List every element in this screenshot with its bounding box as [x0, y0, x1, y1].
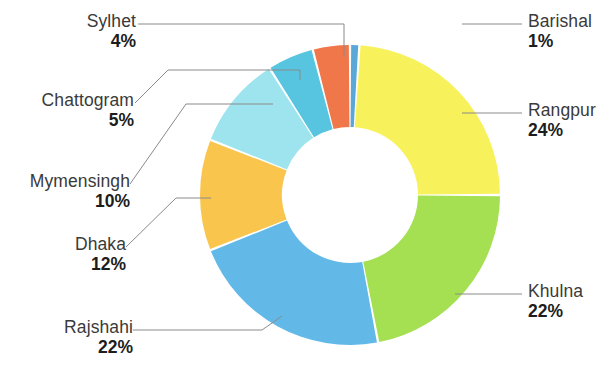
callout-rajshahi-value: 22%: [64, 338, 133, 358]
donut-chart: Sylhet 4% Chattogram 5% Mymensingh 10% D…: [0, 0, 600, 366]
callout-chattogram: Chattogram 5%: [42, 91, 134, 130]
callout-dhaka: Dhaka 12%: [75, 235, 126, 274]
callout-sylhet-value: 4%: [87, 32, 136, 52]
callout-sylhet: Sylhet 4%: [87, 12, 136, 51]
leader-line-rajshahi: [133, 316, 282, 330]
callout-chattogram-label: Chattogram: [42, 91, 134, 110]
callout-rajshahi: Rajshahi 22%: [64, 318, 133, 357]
leader-line-sylhet: [138, 24, 344, 57]
callout-mymensingh: Mymensingh 10%: [30, 172, 130, 211]
leader-line-dhaka: [126, 198, 211, 247]
callout-mymensingh-label: Mymensingh: [30, 172, 130, 191]
callout-khulna-value: 22%: [528, 302, 583, 322]
callout-barishal: Barishal 1%: [528, 12, 592, 51]
slice-rangpur[interactable]: [355, 45, 500, 194]
callout-rangpur-label: Rangpur: [528, 101, 596, 120]
callout-barishal-value: 1%: [528, 32, 592, 52]
callout-rajshahi-label: Rajshahi: [64, 318, 133, 337]
slice-rajshahi[interactable]: [211, 221, 377, 345]
callout-rangpur-value: 24%: [528, 121, 596, 141]
callout-dhaka-label: Dhaka: [75, 235, 126, 254]
callout-mymensingh-value: 10%: [30, 192, 130, 212]
callout-khulna: Khulna 22%: [528, 282, 583, 321]
callout-chattogram-value: 5%: [42, 111, 134, 131]
donut-slices: [200, 45, 500, 345]
callout-barishal-label: Barishal: [528, 12, 592, 31]
callout-rangpur: Rangpur 24%: [528, 101, 596, 140]
callout-khulna-label: Khulna: [528, 282, 583, 301]
callout-dhaka-value: 12%: [75, 255, 126, 275]
slice-khulna[interactable]: [363, 196, 500, 343]
callout-sylhet-label: Sylhet: [87, 12, 136, 31]
